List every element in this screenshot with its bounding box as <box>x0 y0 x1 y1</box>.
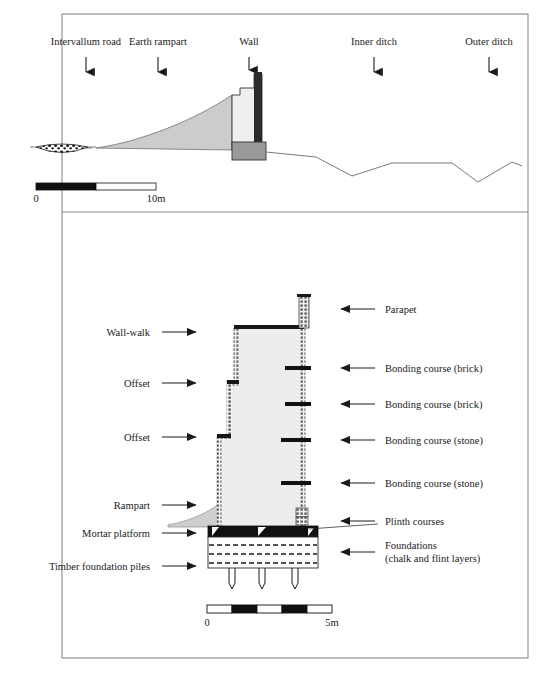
bonding-course-stone-2-mark <box>281 481 311 485</box>
lower-panel: Wall-walk Offset Offset Rampart Mortar p… <box>49 294 484 628</box>
offset-lower-step <box>217 434 231 438</box>
offset-upper-step <box>227 380 239 384</box>
scale-upper-end: 10m <box>147 193 166 204</box>
upper-wall-foundation <box>232 142 266 160</box>
lower-left-labels: Wall-walk Offset Offset Rampart Mortar p… <box>49 327 196 572</box>
upper-wall <box>232 72 266 160</box>
bonding-course-brick-1-mark <box>285 366 311 370</box>
label-intervallum-road: Intervallum road <box>51 36 122 47</box>
leader-plinth-courses <box>308 524 378 529</box>
timber-foundation-piles <box>229 568 298 589</box>
label-bonding-course-brick-2: Bonding course (brick) <box>385 399 483 411</box>
label-earth-rampart: Earth rampart <box>129 36 187 47</box>
bonding-course-stone-1-mark <box>281 438 311 442</box>
label-offset-upper: Offset <box>124 378 150 389</box>
intervallum-road-cobbles <box>36 144 88 153</box>
upper-panel: Intervallum road Earth rampart Wall Inne… <box>30 36 522 204</box>
label-offset-lower: Offset <box>124 432 150 443</box>
label-parapet: Parapet <box>385 304 417 315</box>
label-plinth-courses: Plinth courses <box>385 516 444 527</box>
bonding-course-brick-2-mark <box>285 402 311 406</box>
label-foundations-detail: (chalk and flint layers) <box>385 553 481 565</box>
ditch-profile <box>266 152 522 182</box>
label-foundations: Foundations <box>385 540 437 551</box>
label-wall: Wall <box>239 36 259 47</box>
scale-upper-start: 0 <box>33 193 38 204</box>
upper-callouts: Intervallum road Earth rampart Wall Inne… <box>51 36 514 72</box>
wall-walk-surface <box>234 325 304 329</box>
scale-bar-lower: 0 5m <box>204 605 338 628</box>
parapet <box>297 294 311 328</box>
label-bonding-course-stone-2: Bonding course (stone) <box>385 478 483 490</box>
mortar-platform <box>208 526 318 537</box>
label-timber-foundation-piles: Timber foundation piles <box>49 561 150 572</box>
wall-body <box>217 296 304 527</box>
label-inner-ditch: Inner ditch <box>351 36 398 47</box>
scale-bar-upper: 0 10m <box>33 183 165 204</box>
scale-lower-end: 5m <box>325 617 338 628</box>
label-bonding-course-stone-1: Bonding course (stone) <box>385 435 483 447</box>
scale-lower-start: 0 <box>204 617 209 628</box>
upper-wall-parapet <box>254 72 262 150</box>
label-wall-walk: Wall-walk <box>107 327 151 338</box>
earth-rampart-body <box>96 95 232 150</box>
cross-section-figure: Intervallum road Earth rampart Wall Inne… <box>0 0 539 673</box>
figure-root: Intervallum road Earth rampart Wall Inne… <box>0 0 539 673</box>
label-outer-ditch: Outer ditch <box>465 36 513 47</box>
label-mortar-platform: Mortar platform <box>82 528 150 539</box>
lower-right-labels: Parapet Bonding course (brick) Bonding c… <box>308 304 483 565</box>
plinth-courses <box>296 508 308 525</box>
label-rampart: Rampart <box>114 500 150 511</box>
foundations <box>208 537 318 568</box>
label-bonding-course-brick-1: Bonding course (brick) <box>385 363 483 375</box>
